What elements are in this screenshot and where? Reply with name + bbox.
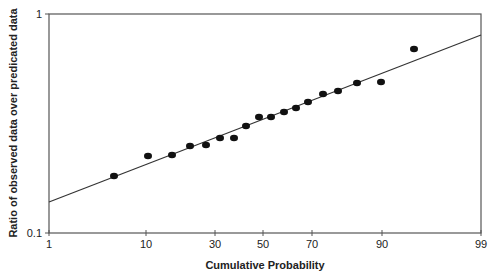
data-point xyxy=(304,99,312,105)
data-point xyxy=(319,91,327,97)
x-tick-label: 1 xyxy=(46,238,52,250)
x-tick-label: 50 xyxy=(257,238,269,250)
data-point xyxy=(267,114,275,120)
x-tick-label: 99 xyxy=(475,238,487,250)
y-axis-title: Ratio of observed data over predicated d… xyxy=(7,8,19,238)
data-point xyxy=(255,114,263,120)
data-point xyxy=(377,79,385,85)
x-tick-label: 90 xyxy=(376,238,388,250)
data-point xyxy=(186,143,194,149)
x-tick-label: 10 xyxy=(140,238,152,250)
x-axis-title: Cumulative Probability xyxy=(205,259,325,271)
data-point xyxy=(242,123,250,129)
probability-plot: 11030507090990.11 Cumulative Probability… xyxy=(0,0,492,277)
axis-ticks: 11030507090990.11 xyxy=(27,8,487,250)
x-tick-label: 70 xyxy=(306,238,318,250)
y-tick-label: 1 xyxy=(36,8,42,20)
data-point xyxy=(110,173,118,179)
data-point xyxy=(216,135,224,141)
data-point xyxy=(168,152,176,158)
data-point xyxy=(280,109,288,115)
data-point xyxy=(144,153,152,159)
data-points xyxy=(110,46,418,179)
x-tick-label: 30 xyxy=(209,238,221,250)
data-point xyxy=(334,88,342,94)
data-point xyxy=(202,142,210,148)
y-tick-label: 0.1 xyxy=(27,227,42,239)
data-point xyxy=(292,105,300,111)
data-point xyxy=(410,46,418,52)
data-point xyxy=(230,135,238,141)
data-point xyxy=(353,80,361,86)
